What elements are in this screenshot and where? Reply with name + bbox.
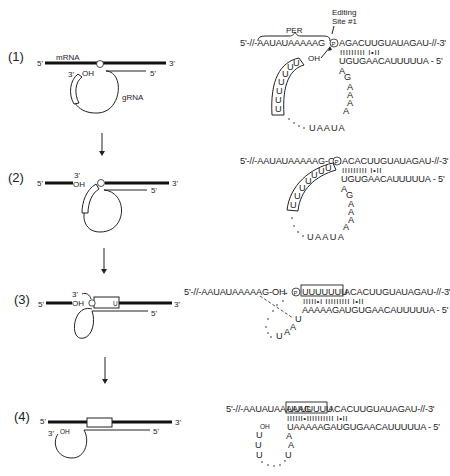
- grna-3prime: 3': [68, 70, 74, 79]
- loop-letters: A G A A A A: [341, 184, 355, 232]
- grna-3prime: 3': [48, 429, 54, 438]
- phosphate-label: P: [332, 41, 336, 47]
- mrna-3prime: 3': [174, 300, 180, 309]
- grna-5prime: 5': [151, 309, 157, 318]
- step-3-sequence: 5'-//-AAUAUAAAAAG-OH → P UUUUUUU ACACUUG…: [184, 285, 450, 341]
- svg-text:G: G: [344, 72, 351, 82]
- svg-text:A: A: [290, 322, 297, 332]
- phosphate-icon: [89, 300, 95, 306]
- grna-label: gRNA: [122, 93, 144, 102]
- mrna-sequence-right: AGACUUGUAUAGAU-//-3': [339, 38, 446, 48]
- grna-sequence: UGUGAACAUUUUUA - 5': [339, 56, 443, 66]
- loop-letters: U A A U: [276, 314, 302, 341]
- oh-3prime: 3': [74, 171, 80, 180]
- step-1-sequence: Editing Site #1 PER 5'-//-AAUAUAAAAAG P …: [240, 8, 446, 133]
- oh-label: OH: [72, 299, 84, 308]
- step-2-schematic: (2) 5' 3' OH 3' 5': [8, 170, 178, 232]
- inserted-u-box: [87, 418, 112, 427]
- mrna-sequence-left: 5'-//-AAUAUAAAAAG-OH: [184, 287, 285, 297]
- mrna-5prime: 5': [38, 300, 44, 309]
- svg-text:U: U: [305, 176, 312, 186]
- oh-label: OH: [73, 180, 85, 189]
- mrna-label: mRNA: [56, 53, 80, 62]
- loop-dots: [291, 217, 304, 237]
- grna-oh: OH: [82, 69, 94, 78]
- arrow-3-4: [102, 357, 108, 384]
- oh-label: OH: [60, 428, 70, 435]
- svg-text:U: U: [318, 166, 325, 176]
- step-3-label: (3): [14, 292, 30, 307]
- u-mark: U: [113, 300, 118, 307]
- svg-text:A: A: [343, 222, 350, 232]
- arrow-2-3: [101, 248, 107, 274]
- cleavage-dashed-line: [260, 296, 293, 318]
- mrna-3prime: 3': [172, 179, 178, 188]
- step-4-schematic: (4) 5' 3' 5' 3' OH: [14, 409, 181, 458]
- svg-text:U: U: [256, 430, 263, 440]
- oh-label: OH: [260, 423, 270, 430]
- mrna-sequence-right: ACACUUGUAUAGAU-//-3': [342, 156, 449, 166]
- svg-text:A: A: [284, 327, 291, 337]
- svg-text:A: A: [288, 440, 295, 450]
- editing-site-label-2: Site #1: [332, 17, 357, 26]
- grna-5prime: 5': [151, 186, 157, 195]
- editing-site-pointer: [332, 26, 334, 34]
- svg-text:U: U: [275, 104, 282, 114]
- loop-letters: A A U: [285, 431, 295, 460]
- loop-bottom-seq: UAAUA: [307, 232, 345, 242]
- phosphate-label: P: [335, 159, 339, 165]
- svg-text:U: U: [293, 58, 300, 68]
- oh-label: OH: [308, 54, 320, 63]
- svg-text:U: U: [255, 440, 262, 450]
- arrow-1-2: [99, 133, 105, 156]
- grna-sequence: UAAAAAGAUGUGAACAUUUUUA - 5': [287, 422, 440, 432]
- three-prime-top: 3': [72, 290, 78, 299]
- phosphate-label: P: [294, 290, 298, 296]
- ligation-arrow: →: [280, 287, 289, 297]
- svg-text:A: A: [348, 215, 355, 225]
- mrna-5prime: 5': [40, 417, 46, 426]
- u-tail-letters: U U U U U U U: [275, 58, 300, 114]
- mrna-sequence-left: 5'-//-AAUAUAAAAAG: [240, 38, 325, 48]
- step-1-schematic: (1) 5' mRNA 3' 5' 3' OH gRNA: [8, 49, 175, 113]
- svg-text:U: U: [290, 200, 297, 210]
- svg-text:U: U: [325, 163, 332, 173]
- step-2-label: (2): [8, 170, 24, 185]
- mrna-sequence-right: ACACUUGUAUAGAU-//-3': [344, 287, 450, 297]
- grna-5prime: 5': [153, 427, 159, 436]
- svg-text:U: U: [276, 331, 283, 341]
- grna-sequence: UGUGAACAUUUUUA - 5': [341, 174, 445, 184]
- attack-arrow: [321, 47, 330, 58]
- step-4-sequence: 5'-//-AAUAUAAAAAG UUUUUUU ACACUUGUAUAGAU…: [226, 402, 440, 467]
- rna-editing-diagram: (1) 5' mRNA 3' 5' 3' OH gRNA (2) 5' 3' O…: [0, 0, 450, 476]
- step-2-sequence: 5'-//-AAUAUAAAAAG-OH P ACACUUGUAUAGAU-//…: [240, 156, 449, 242]
- svg-text:A: A: [343, 106, 350, 116]
- grna-sequence: AAAAAGAUGUGAACAUUUUUA - 5': [302, 305, 449, 315]
- phosphate-icon: [97, 61, 104, 68]
- svg-text:U: U: [256, 450, 263, 460]
- loop-bottom-seq: UAAUA: [309, 123, 346, 133]
- svg-text:U: U: [285, 450, 292, 460]
- inserted-u-seq: UUUUUUU: [302, 287, 347, 297]
- step-4-label: (4): [14, 409, 30, 424]
- grna-5prime: 5': [150, 69, 156, 78]
- phosphate-icon: [98, 180, 105, 187]
- editing-site-label-1: Editing: [332, 8, 356, 17]
- loop-dots: [288, 118, 305, 129]
- step-1-label: (1): [8, 49, 24, 64]
- mrna-5prime: 5': [37, 179, 43, 188]
- grna-loop: [74, 308, 93, 338]
- mrna-3prime: 3': [169, 59, 175, 68]
- step-3-schematic: (3) 5' 3' OH U 3' 5': [14, 290, 180, 338]
- mrna-3prime: 3': [175, 418, 181, 427]
- loop-letters: A G A A A A: [339, 66, 354, 116]
- mrna-5prime: 5': [37, 59, 43, 68]
- inserted-u-seq: UUUUUUU: [287, 404, 332, 414]
- loop-dots: [261, 460, 286, 467]
- svg-text:U: U: [311, 170, 318, 180]
- u-tail-letters: U U U: [255, 430, 263, 460]
- mrna-sequence-right: ACACUUGUAUAGAU-//-3': [328, 404, 435, 414]
